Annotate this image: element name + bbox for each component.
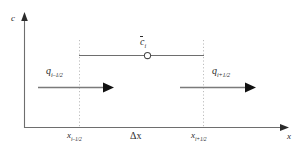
flux-right-arrowhead: [245, 82, 256, 92]
c-axis-label: c: [11, 14, 15, 23]
x-axis-arrowhead: [280, 124, 289, 131]
cell-boundary-left-label: xi–1/2: [67, 131, 81, 140]
c-axis-arrowhead: [21, 12, 28, 21]
flux-left-arrowhead: [103, 82, 114, 92]
cell-boundary-right-subscript: i+1/2: [195, 136, 206, 142]
flux-left-arrow: [38, 82, 114, 92]
cell-average-label: ci: [140, 37, 146, 47]
cell-average-subscript: i: [144, 42, 146, 49]
cell-boundary-left-subscript: i–1/2: [71, 136, 81, 142]
flux-right-subscript: i+1/2: [217, 71, 230, 78]
cell-width-label: Δx: [130, 131, 141, 141]
diagram-canvas: [0, 0, 305, 152]
x-axis-label: x: [287, 132, 291, 141]
finite-volume-cell-diagram: c x ci qi–1/2 qi+1/2 xi–1/2 xi+1/2 Δx: [0, 0, 305, 152]
cell-average-marker: [144, 52, 150, 58]
x-axis-group: [25, 124, 290, 131]
c-axis-group: [21, 12, 28, 128]
flux-left-subscript: i–1/2: [51, 71, 63, 78]
cell-boundary-right-label: xi+1/2: [191, 131, 206, 140]
flux-right-label: qi+1/2: [212, 66, 230, 76]
flux-left-label: qi–1/2: [46, 66, 63, 76]
flux-right-arrow: [180, 82, 256, 92]
